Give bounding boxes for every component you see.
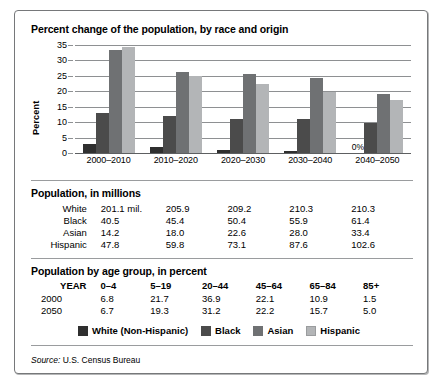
y-tick-label-35: 35 [35, 41, 67, 50]
divider-above-age-table [31, 258, 413, 259]
table-row: 20006.821.736.922.110.91.5 [31, 292, 413, 304]
x-axis-labels: 2000–20102010–20202020–20302030–20402040… [75, 155, 411, 165]
table-cell: 22.2 [256, 304, 310, 316]
divider-above-population-table [31, 180, 413, 181]
bar [256, 84, 269, 153]
column-header: 85+ [363, 280, 413, 292]
table-cell: 50.4 [228, 214, 290, 226]
table-cell: 45.4 [166, 214, 228, 226]
table-cell: 22.6 [228, 226, 290, 238]
chart-bar-groups: 0% [75, 45, 411, 153]
bar [390, 100, 403, 153]
column-header: 5–19 [150, 280, 202, 292]
population-table-block: Population, in millions White201.1 mil.2… [31, 187, 413, 251]
bar [163, 116, 176, 153]
bar [217, 150, 230, 153]
table-cell: 59.8 [166, 239, 228, 251]
source-text: U.S. Census Bureau [63, 355, 140, 365]
table-cell: 14.2 [101, 226, 166, 238]
y-tick-mark-35 [68, 45, 73, 46]
legend-swatch [201, 326, 211, 336]
population-table: White201.1 mil.205.9209.2210.3210.3Black… [31, 202, 413, 251]
table-cell: 19.3 [150, 304, 202, 316]
bar [189, 76, 202, 153]
gridline-0 [75, 153, 411, 154]
bar-group [209, 45, 276, 153]
table-row: Asian14.218.022.628.033.4 [31, 226, 413, 238]
x-axis-label: 2040–2050 [344, 155, 411, 165]
table-cell: 18.0 [166, 226, 228, 238]
table-cell: 22.1 [256, 292, 310, 304]
table-cell: 47.8 [101, 239, 166, 251]
y-tick-mark-25 [68, 76, 73, 77]
row-label: Asian [31, 226, 101, 238]
table-row: 20506.719.331.222.215.75.0 [31, 304, 413, 316]
legend-label: Black [215, 325, 240, 336]
table-cell: 61.4 [351, 214, 413, 226]
bar [230, 119, 243, 153]
legend-item: Black [201, 325, 240, 336]
bar-group [75, 45, 142, 153]
table-cell: 31.2 [202, 304, 256, 316]
x-axis-label: 2010–2020 [142, 155, 209, 165]
table-cell: 36.9 [202, 292, 256, 304]
age-table-block: Population by age group, in percent YEAR… [31, 265, 413, 317]
source-line: Source: U.S. Census Bureau [31, 355, 413, 365]
bar [176, 72, 189, 153]
bar [96, 113, 109, 153]
legend-item: White (Non-Hispanic) [78, 325, 188, 336]
legend-swatch [78, 326, 88, 336]
legend-swatch [306, 326, 316, 336]
age-table: YEAR0–45–1920–4445–6465–8485+ 20006.821.… [31, 280, 413, 317]
infographic-page: Percent change of the population, by rac… [0, 0, 442, 384]
table-header-row: YEAR0–45–1920–4445–6465–8485+ [31, 280, 413, 292]
infographic-frame: Percent change of the population, by rac… [14, 10, 428, 374]
y-tick-label-30: 30 [35, 56, 67, 65]
table-cell: 55.9 [289, 214, 351, 226]
table-cell: 209.2 [228, 202, 290, 214]
column-header: 0–4 [100, 280, 150, 292]
bar [377, 94, 390, 153]
y-tick-label-10: 10 [35, 118, 67, 127]
bar-chart: Percent 35302520151050 0% 2000–20102010–… [31, 45, 413, 180]
bar [364, 123, 377, 153]
table-cell: 205.9 [166, 202, 228, 214]
y-tick-mark-0 [68, 153, 73, 154]
bar [122, 47, 135, 153]
y-tick-mark-10 [68, 122, 73, 123]
y-tick-mark-15 [68, 107, 73, 108]
row-label: White [31, 202, 101, 214]
population-table-title: Population, in millions [31, 187, 413, 200]
row-label: 2000 [31, 292, 100, 304]
chart-legend: White (Non-Hispanic)BlackAsianHispanic [31, 325, 413, 336]
bar-group [277, 45, 344, 153]
bar [243, 74, 256, 153]
y-tick-label-0: 0 [35, 149, 67, 158]
table-cell: 6.8 [100, 292, 150, 304]
y-tick-label-25: 25 [35, 72, 67, 81]
table-row: Black40.545.450.455.961.4 [31, 214, 413, 226]
age-table-title: Population by age group, in percent [31, 265, 413, 278]
row-label: Black [31, 214, 101, 226]
bar-group [142, 45, 209, 153]
column-header: 20–44 [202, 280, 256, 292]
bar [323, 92, 336, 153]
table-cell: 33.4 [351, 226, 413, 238]
table-cell: 21.7 [150, 292, 202, 304]
y-tick-mark-30 [68, 60, 73, 61]
column-header: 65–84 [309, 280, 363, 292]
row-label: 2050 [31, 304, 100, 316]
table-cell: 102.6 [351, 239, 413, 251]
table-cell: 73.1 [228, 239, 290, 251]
bar [297, 119, 310, 153]
infographic-content: Percent change of the population, by rac… [31, 23, 413, 363]
divider-above-source [31, 345, 413, 346]
bar [310, 78, 323, 153]
table-cell: 10.9 [309, 292, 363, 304]
bar [83, 144, 96, 153]
y-tick-mark-5 [68, 138, 73, 139]
table-cell: 210.3 [351, 202, 413, 214]
bar [284, 151, 297, 153]
bar-group: 0% [344, 45, 411, 153]
table-cell: 201.1 mil. [101, 202, 166, 214]
